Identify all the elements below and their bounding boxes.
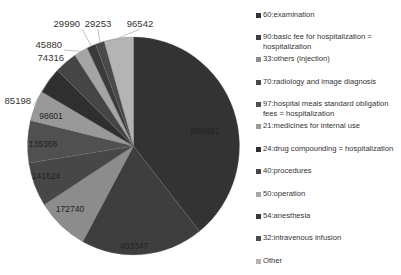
legend-label: 54:anesthesia	[263, 211, 398, 221]
legend-marker-icon	[256, 259, 261, 264]
legend-label: 32:intravenous infusion	[263, 233, 398, 243]
legend-marker-icon	[256, 169, 261, 174]
legend-item: 70:radiology and image diagnosis	[256, 77, 398, 87]
leader-line	[98, 29, 100, 43]
data-label: 85198	[5, 95, 31, 106]
legend-label: 97:hospital meals standard obligation fe…	[263, 99, 398, 118]
legend-marker-icon	[256, 214, 261, 219]
legend-marker-icon	[256, 80, 261, 85]
legend-marker-icon	[256, 192, 261, 197]
legend-item: 60:examination	[256, 10, 398, 20]
data-label: 141624	[32, 171, 61, 181]
legend-marker-icon	[256, 13, 261, 18]
data-label: 29253	[85, 18, 111, 29]
legend-marker-icon	[256, 236, 261, 241]
legend-item: Other	[256, 256, 398, 266]
legend-marker-icon	[256, 35, 261, 40]
legend-label: 33:others (injection)	[263, 54, 398, 64]
legend-item: 50:operation	[256, 189, 398, 199]
pie-chart: 8504914033471727401416241353689860185198…	[0, 0, 255, 275]
legend-label: 21:medicines for internal use	[263, 121, 398, 131]
legend-item: 24:drug compounding = hospitalization	[256, 144, 398, 154]
legend-marker-icon	[256, 124, 261, 129]
legend-item: 54:anesthesia	[256, 211, 398, 221]
legend-label: 50:operation	[263, 189, 398, 199]
data-label: 96542	[127, 18, 153, 29]
legend-item: 40:procedures	[256, 166, 398, 176]
data-label: 74316	[38, 52, 64, 63]
leader-line	[82, 29, 91, 46]
legend-label: 60:examination	[263, 10, 398, 20]
legend-label: 40:procedures	[263, 166, 398, 176]
data-label: 98601	[39, 111, 63, 121]
data-label: 172740	[56, 204, 85, 214]
legend-label: 70:radiology and image diagnosis	[263, 77, 398, 87]
legend-item: 21:medicines for internal use	[256, 121, 398, 131]
legend-item: 97:hospital meals standard obligation fe…	[256, 99, 398, 118]
legend-label: 90:basic fee for hospitalization = hospi…	[263, 32, 398, 51]
legend-label: Other	[263, 256, 398, 266]
data-label: 29990	[54, 18, 80, 29]
leader-line	[119, 29, 140, 38]
legend-item: 90:basic fee for hospitalization = hospi…	[256, 32, 398, 51]
legend-item: 32:intravenous infusion	[256, 233, 398, 243]
data-label: 850491	[191, 126, 220, 136]
pie-slices	[28, 37, 240, 255]
legend-marker-icon	[256, 147, 261, 152]
legend-item: 33:others (injection)	[256, 54, 398, 64]
data-label: 135368	[29, 139, 58, 149]
data-label: 45880	[36, 39, 62, 50]
legend-marker-icon	[256, 57, 261, 62]
leader-line	[64, 50, 81, 51]
legend-label: 24:drug compounding = hospitalization	[263, 144, 398, 154]
legend-marker-icon	[256, 102, 261, 107]
data-label: 403347	[120, 241, 149, 251]
